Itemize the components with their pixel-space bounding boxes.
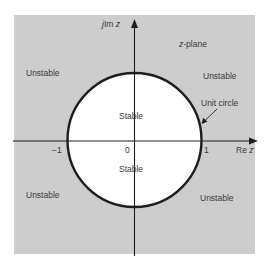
- region-label-unstable-bottom-left: Unstable: [26, 190, 60, 200]
- plane-label-rest: -plane: [183, 39, 207, 49]
- z-plane-diagram: jIm z z-plane Unstable Unstable Stable S…: [0, 0, 266, 268]
- region-label-stable-lower: Stable: [119, 164, 143, 174]
- tick-label-zero: 0: [125, 145, 130, 155]
- imag-axis-label-z: z: [116, 19, 120, 29]
- plane-label: z-plane: [179, 39, 207, 49]
- real-axis-label: Re z: [236, 145, 254, 155]
- region-label-unstable-top-left: Unstable: [26, 68, 60, 78]
- imag-axis-label-im: Im: [104, 19, 113, 29]
- tick-label-one: 1: [204, 145, 209, 155]
- imag-axis-label: jIm z: [102, 19, 120, 29]
- region-label-unstable-top-right: Unstable: [203, 71, 237, 81]
- real-axis-label-z: z: [249, 145, 253, 155]
- real-axis-label-re: Re: [236, 145, 247, 155]
- diagram-canvas: [0, 0, 266, 268]
- region-label-stable-upper: Stable: [119, 111, 143, 121]
- tick-label-neg-one: −1: [52, 145, 62, 155]
- unit-circle-label: Unit circle: [201, 98, 238, 108]
- region-label-unstable-bottom-right: Unstable: [200, 193, 234, 203]
